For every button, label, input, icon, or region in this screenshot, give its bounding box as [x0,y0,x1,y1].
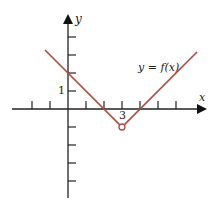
x-axis-label: x [199,92,205,103]
x-axis-ticks [32,101,176,109]
y-axis-arrow-icon [63,14,73,24]
x-tick-label-3: 3 [119,110,126,121]
function-graph [0,0,215,208]
y-tick-label-1: 1 [58,85,65,96]
open-point-marker [119,124,125,130]
curve-label: y = f(x) [138,62,179,73]
y-axis-label: y [75,13,82,25]
x-axis-arrow-icon [197,104,207,114]
x-axis [12,101,207,114]
y-axis [63,14,76,198]
